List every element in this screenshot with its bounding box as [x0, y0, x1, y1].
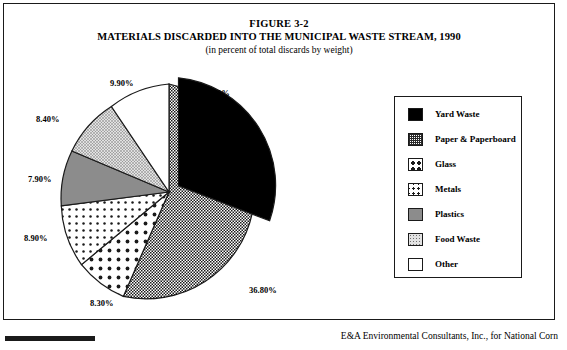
pie-label-plastics: 7.90% — [28, 174, 51, 184]
legend-swatch-fine-stipple-icon — [408, 233, 423, 246]
pie-label-yard-waste: 19.80% — [202, 88, 230, 98]
legend-item-metals: Metals — [408, 181, 461, 197]
pie-label-glass: 8.30% — [90, 298, 113, 308]
pie-label-metals: 8.90% — [24, 233, 47, 243]
legend-item-glass: Glass — [408, 156, 456, 172]
pie-chart-svg — [24, 66, 384, 316]
pie-label-food-waste: 8.40% — [36, 114, 59, 124]
legend-swatch-checkered-icon — [408, 133, 423, 146]
figure-number: FIGURE 3-2 — [4, 18, 554, 30]
legend-label-other: Other — [435, 259, 458, 269]
pie-label-other: 9.90% — [110, 78, 133, 88]
legend-swatch-large-dots-icon — [408, 158, 423, 171]
legend-swatch-white-icon — [408, 258, 423, 271]
figure-frame: FIGURE 3-2 MATERIALS DISCARDED INTO THE … — [3, 3, 555, 320]
footer-rule — [5, 336, 95, 341]
legend-swatch-solid-black-icon — [408, 108, 423, 121]
legend-swatch-sparse-dots-icon — [408, 183, 423, 196]
pie-chart: 19.80% 36.80% 8.30% 8.90% 7.90% 8.40% 9.… — [24, 66, 384, 316]
legend: Yard Waste Paper & Paperboard Glass Meta… — [394, 96, 522, 278]
legend-item-food-waste: Food Waste — [408, 231, 480, 247]
pie-label-paper-paperboard: 36.80% — [249, 285, 277, 295]
legend-label-plastics: Plastics — [435, 209, 464, 219]
legend-label-paper-paperboard: Paper & Paperboard — [435, 134, 516, 144]
legend-label-glass: Glass — [435, 159, 456, 169]
legend-label-metals: Metals — [435, 184, 461, 194]
legend-item-yard-waste: Yard Waste — [408, 106, 480, 122]
legend-swatch-solid-gray-icon — [408, 208, 423, 221]
legend-item-other: Other — [408, 256, 458, 272]
title-block: FIGURE 3-2 MATERIALS DISCARDED INTO THE … — [4, 18, 554, 56]
legend-label-yard-waste: Yard Waste — [435, 109, 480, 119]
legend-item-plastics: Plastics — [408, 206, 464, 222]
page-title: MATERIALS DISCARDED INTO THE MUNICIPAL W… — [4, 31, 554, 43]
legend-label-food-waste: Food Waste — [435, 234, 480, 244]
legend-item-paper-paperboard: Paper & Paperboard — [408, 131, 516, 147]
figure-subtitle: (in percent of total discards by weight) — [4, 45, 554, 56]
footer-credit: E&A Environmental Consultants, Inc., for… — [341, 331, 558, 341]
